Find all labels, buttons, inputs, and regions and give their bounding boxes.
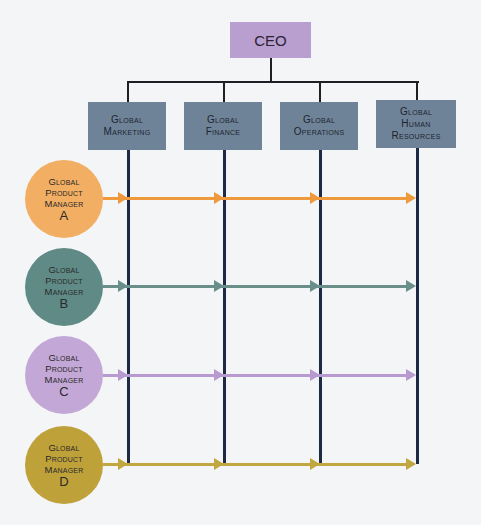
arrowhead-icon xyxy=(406,458,416,470)
arrowhead-icon xyxy=(214,369,224,381)
arrowhead-icon xyxy=(214,192,224,204)
pm-letter: D xyxy=(59,475,69,489)
arrow-line-d xyxy=(103,463,411,466)
product-manager-d: Global Product Manager D xyxy=(25,426,103,504)
dept-label-line: Operations xyxy=(294,126,345,138)
arrowhead-icon xyxy=(214,280,224,292)
dept-label-line: Finance xyxy=(206,126,241,138)
dept-global-finance: Global Finance xyxy=(184,102,262,150)
ceo-connector-horizontal xyxy=(127,81,419,83)
drop-line-finance xyxy=(223,81,225,102)
pm-label-line: Manager xyxy=(45,374,84,385)
pm-label-line: Product xyxy=(45,363,83,374)
arrowhead-icon xyxy=(214,458,224,470)
dept-label-line: Global xyxy=(303,114,335,126)
pm-label-line: Global xyxy=(48,352,79,363)
arrowhead-icon xyxy=(118,192,128,204)
arrowhead-icon xyxy=(310,458,320,470)
drop-line-operations xyxy=(319,81,321,102)
drop-line-hr xyxy=(416,81,418,100)
dept-label-line: Global xyxy=(400,106,432,118)
arrowhead-icon xyxy=(406,280,416,292)
pm-letter: B xyxy=(60,297,69,311)
ceo-box: CEO xyxy=(230,22,311,58)
pm-label-line: Manager xyxy=(45,286,84,297)
vertical-line-hr xyxy=(416,148,419,464)
pm-label-line: Global xyxy=(48,264,79,275)
arrowhead-icon xyxy=(118,458,128,470)
dept-global-operations: Global Operations xyxy=(280,102,358,150)
pm-label-line: Manager xyxy=(45,198,84,209)
pm-label-line: Manager xyxy=(45,464,84,475)
arrowhead-icon xyxy=(310,192,320,204)
pm-letter: A xyxy=(60,209,69,223)
pm-label-line: Global xyxy=(48,176,79,187)
ceo-label: CEO xyxy=(254,32,287,49)
product-manager-c: Global Product Manager C xyxy=(25,336,103,414)
arrow-line-a xyxy=(103,197,411,200)
pm-label-line: Product xyxy=(45,187,83,198)
ceo-connector-vertical xyxy=(270,58,272,82)
product-manager-b: Global Product Manager B xyxy=(25,248,103,326)
arrow-line-b xyxy=(103,285,411,288)
arrowhead-icon xyxy=(118,280,128,292)
dept-label-line: Resources xyxy=(391,130,440,142)
arrowhead-icon xyxy=(406,369,416,381)
dept-label-line: Human xyxy=(401,118,430,130)
arrowhead-icon xyxy=(406,192,416,204)
pm-label-line: Product xyxy=(45,275,83,286)
pm-letter: C xyxy=(59,385,69,399)
pm-label-line: Product xyxy=(45,453,83,464)
dept-global-marketing: Global Marketing xyxy=(88,102,166,150)
arrowhead-icon xyxy=(310,369,320,381)
arrowhead-icon xyxy=(118,369,128,381)
dept-label-line: Global xyxy=(111,114,143,126)
arrow-line-c xyxy=(103,374,411,377)
arrowhead-icon xyxy=(310,280,320,292)
drop-line-marketing xyxy=(127,81,129,102)
dept-label-line: Global xyxy=(207,114,239,126)
product-manager-a: Global Product Manager A xyxy=(25,160,103,238)
dept-global-human-resources: Global Human Resources xyxy=(376,100,456,148)
dept-label-line: Marketing xyxy=(104,126,151,138)
pm-label-line: Global xyxy=(48,442,79,453)
